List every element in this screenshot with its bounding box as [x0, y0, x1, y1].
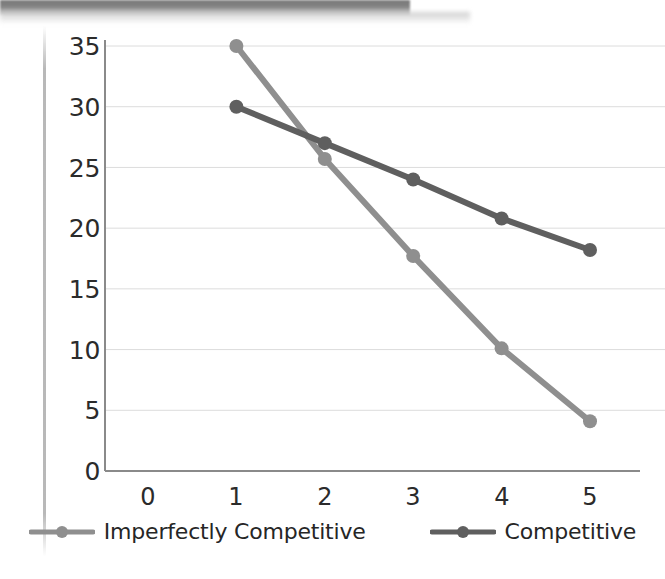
line-chart: 35 30 25 20 15 10 5 0 0 1 2 3 4 5 Imperf… [0, 0, 665, 579]
legend-swatch-icon [430, 522, 496, 542]
data-point-marker [318, 152, 332, 166]
legend-item-competitive[interactable]: Competitive [430, 519, 637, 544]
data-point-marker [406, 173, 420, 187]
chart-legend: Imperfectly Competitive Competitive [0, 519, 665, 544]
data-point-marker [583, 243, 597, 257]
data-point-marker [406, 249, 420, 263]
legend-item-imperfectly-competitive[interactable]: Imperfectly Competitive [29, 519, 366, 544]
legend-label: Competitive [505, 519, 637, 544]
data-point-marker [318, 136, 332, 150]
data-point-marker [495, 341, 509, 355]
plot-area [0, 0, 665, 579]
data-point-marker [229, 39, 243, 53]
legend-swatch-icon [29, 522, 95, 542]
data-series-layer [229, 39, 597, 428]
legend-label: Imperfectly Competitive [104, 519, 366, 544]
axis-lines [105, 40, 640, 471]
data-point-marker [583, 414, 597, 428]
data-point-marker [229, 100, 243, 114]
data-point-marker [495, 211, 509, 225]
